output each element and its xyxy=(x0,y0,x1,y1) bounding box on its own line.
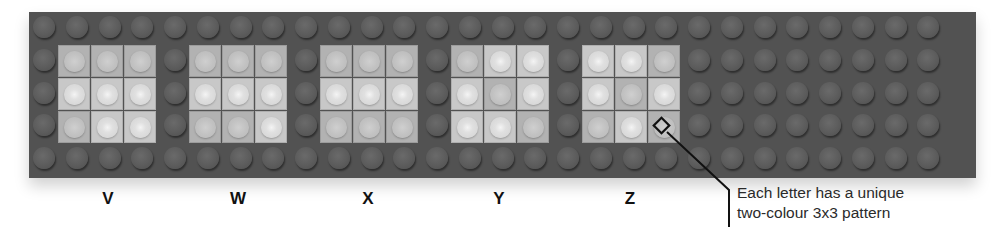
diamond-marker-icon xyxy=(654,118,670,134)
callout-text: Each letter has a unique two-colour 3x3 … xyxy=(737,183,904,223)
callout-line-1: Each letter has a unique xyxy=(737,183,904,203)
callout-line xyxy=(667,132,729,227)
callout-line-2: two-colour 3x3 pattern xyxy=(737,203,904,223)
lego-letter-diagram: V W X Y Z Each letter has a unique two-c… xyxy=(0,0,994,229)
